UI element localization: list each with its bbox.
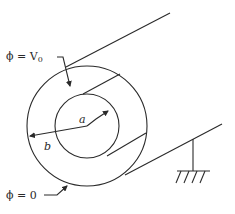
radius-b-label: b (44, 140, 51, 153)
radius-b-arrow (30, 126, 87, 136)
outer-cylinder-top-edge (66, 13, 170, 67)
coaxial-cylinder-diagram: a b ϕ = V0 ϕ = 0 (0, 0, 235, 214)
inner-potential-leader-arrow (57, 57, 70, 86)
outer-potential-label: ϕ = 0 (6, 189, 37, 202)
outer-cylinder-bottom-edge (125, 124, 222, 175)
inner-cylinder-top-edge (83, 74, 120, 94)
radius-a-arrow (87, 111, 108, 126)
radius-a-label: a (79, 113, 86, 126)
outer-potential-leader-arrow (44, 186, 67, 195)
inner-potential-label: ϕ = V0 (6, 50, 43, 64)
